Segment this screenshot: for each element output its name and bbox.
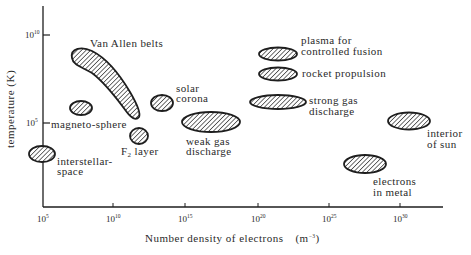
region-weak-gas-discharge — [182, 112, 240, 132]
x-tick-label-20: 1020 — [251, 213, 266, 224]
label-interstellar-2: space — [57, 165, 83, 177]
label-rocket-propulsion: rocket propulsion — [302, 67, 386, 79]
x-tick-label-15: 1015 — [178, 213, 193, 224]
y-tick-label-10: 1010 — [25, 29, 40, 40]
y-axis-title: temperature (K) — [4, 70, 17, 148]
region-f2-layer — [130, 128, 148, 144]
x-axis: 105 1010 1015 1020 1025 1030 — [37, 203, 443, 224]
region-magnetosphere — [70, 101, 92, 115]
label-magnetosphere: magneto-sphere — [51, 118, 127, 130]
region-strong-gas-discharge — [250, 95, 306, 109]
region-interstellar-space — [29, 146, 55, 162]
label-interior-sun-2: of sun — [427, 138, 457, 150]
region-rocket-propulsion — [259, 68, 297, 81]
plasma-regions-chart: 1010 105 105 1010 1015 1020 1025 1030 Nu… — [0, 0, 471, 255]
y-axis: 1010 105 — [25, 6, 50, 207]
region-fusion-plasma — [259, 48, 297, 61]
x-tick-label-30: 1030 — [393, 213, 408, 224]
x-tick-label-5: 105 — [37, 213, 49, 224]
region-interior-of-sun — [388, 113, 430, 130]
label-electrons-metal-2: in metal — [373, 186, 412, 198]
x-tick-label-10: 1010 — [106, 213, 121, 224]
label-fusion-2: controlled fusion — [301, 45, 383, 57]
label-weak-gas-2: discharge — [186, 145, 232, 157]
region-electrons-in-metal — [344, 155, 386, 173]
label-strong-gas-2: discharge — [309, 105, 355, 117]
x-tick-label-25: 1025 — [322, 213, 337, 224]
x-axis-title: Number density of electrons(m−3) — [145, 232, 320, 245]
label-van-allen-belts: Van Allen belts — [90, 37, 163, 49]
region-solar-corona — [151, 95, 173, 111]
y-tick-label-5: 105 — [26, 117, 38, 128]
label-solar-corona-2: corona — [176, 92, 208, 104]
label-f2-layer: F2 layer — [121, 145, 159, 159]
